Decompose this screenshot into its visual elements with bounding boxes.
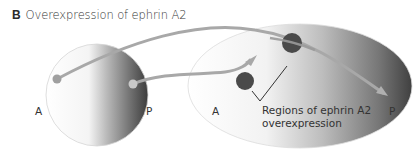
annotation-line-1: Regions of ephrin A2 — [262, 104, 371, 117]
overexpression-dot-2 — [236, 72, 254, 90]
diagram-canvas — [0, 0, 414, 158]
tectum-posterior-label: P — [389, 105, 395, 117]
retina-anterior-label: A — [35, 105, 42, 117]
axon-origin-anterior — [53, 75, 62, 84]
tectum-anterior-label: A — [212, 105, 219, 117]
axon-origin-posterior — [129, 80, 138, 89]
retina-posterior-label: P — [146, 105, 152, 117]
annotation-line-2: overexpression — [262, 117, 371, 130]
overexpression-annotation: Regions of ephrin A2 overexpression — [262, 104, 371, 130]
